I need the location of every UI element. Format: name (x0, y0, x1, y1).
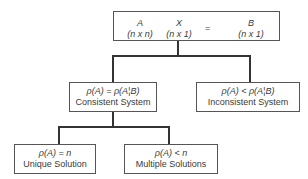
multiple-label: Multiple Solutions (125, 159, 217, 170)
equals-operator: = (205, 23, 210, 34)
unique-label: Unique Solution (15, 159, 95, 170)
term-a-symbol: A (137, 18, 143, 28)
consistent-system-box: ρ(A) = ρ(A¦B) Consistent System (69, 82, 157, 112)
unique-solution-box: ρ(A) = n Unique Solution (14, 144, 96, 174)
connector-to-consistent (112, 55, 114, 83)
term-a-dims: (n x n) (127, 29, 153, 39)
multiple-solutions-box: ρ(A) < n Multiple Solutions (124, 144, 218, 174)
term-b: B (n x 1) (230, 18, 272, 40)
term-a: A (n x n) (120, 18, 160, 40)
connector-to-inconsistent (249, 55, 251, 83)
connector-to-multiple (168, 126, 170, 145)
term-b-symbol: B (248, 18, 254, 28)
inconsistent-system-box: ρ(A) < ρ(A¦B) Inconsistent System (196, 82, 300, 112)
term-x: X (n x 1) (158, 18, 200, 40)
inconsistent-condition: ρ(A) < ρ(A¦B) (197, 86, 299, 97)
term-x-dims: (n x 1) (166, 29, 192, 39)
root-equation-box: A (n x n) X (n x 1) = B (n x 1) (113, 11, 280, 41)
unique-condition: ρ(A) = n (15, 148, 95, 159)
connector-root-stem (177, 41, 179, 56)
connector-level2-bar (112, 55, 251, 57)
connector-level3-bar (58, 126, 170, 128)
consistent-condition: ρ(A) = ρ(A¦B) (70, 86, 156, 97)
connector-consistent-stem (112, 112, 114, 127)
term-x-symbol: X (176, 18, 182, 28)
term-b-dims: (n x 1) (238, 29, 264, 39)
inconsistent-label: Inconsistent System (197, 97, 299, 108)
multiple-condition: ρ(A) < n (125, 148, 217, 159)
connector-to-unique (58, 126, 60, 145)
consistent-label: Consistent System (70, 97, 156, 108)
